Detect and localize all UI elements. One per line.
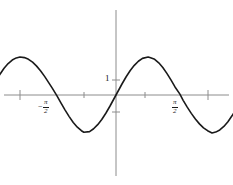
y-axis-label-one: 1 <box>105 74 110 83</box>
fraction-neg-half-pi: π2 <box>43 99 49 115</box>
sine-graph-figure: 1 −π2 π2 <box>0 0 233 185</box>
x-axis-label-positive-half-pi: π2 <box>172 98 178 115</box>
plot-area <box>0 0 233 185</box>
x-axis-label-negative-half-pi: −π2 <box>38 98 49 115</box>
fraction-pos-half-pi: π2 <box>172 99 178 115</box>
minus-sign: − <box>38 103 43 111</box>
fraction-denominator: 2 <box>172 108 178 115</box>
fraction-denominator: 2 <box>43 108 49 115</box>
